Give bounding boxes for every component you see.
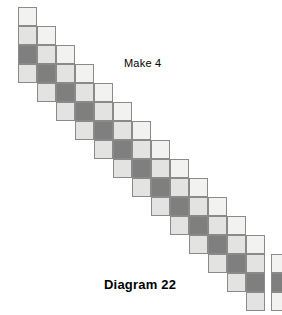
patch-square-dark [132,159,151,178]
patch-square-dark [113,140,132,159]
patch-square-light [246,292,265,311]
patch-square-dotted [132,121,151,140]
patch-square-light [94,140,113,159]
patch-square-dotted [227,216,246,235]
patch-square-dotted [56,45,75,64]
patch-square-dotted [113,102,132,121]
patch-square-dark [271,273,282,292]
patch-square-light [132,178,151,197]
patch-square-dark [75,102,94,121]
patch-square-dotted [208,197,227,216]
patch-square-dotted [170,159,189,178]
patch-square-light [246,254,265,273]
patch-square-light [18,26,37,45]
patch-square-dark [94,121,113,140]
patch-square-light [227,235,246,254]
patch-square-dotted [246,235,265,254]
patch-square-dark [208,235,227,254]
patch-square-dotted [18,7,37,26]
patch-square-dotted [271,254,282,273]
patch-square-light [56,102,75,121]
patch-square-light [18,64,37,83]
diagram-caption: Diagram 22 [104,277,176,292]
patch-square-light [227,273,246,292]
patch-square-light [208,254,227,273]
patch-square-dotted [189,178,208,197]
patch-square-light [151,197,170,216]
patch-square-light [189,197,208,216]
patch-square-dotted [37,26,56,45]
patch-square-light [170,216,189,235]
patch-square-light [113,121,132,140]
patch-square-dotted [151,140,170,159]
patch-square-light [132,140,151,159]
patch-square-dark [227,254,246,273]
diagram-canvas: Make 4 Diagram 22 [0,0,282,315]
patch-square-light [37,45,56,64]
patch-square-dark [189,216,208,235]
patch-square-light [208,216,227,235]
patch-square-dark [246,273,265,292]
patch-square-dotted [75,64,94,83]
patch-square-dark [18,45,37,64]
patch-square-dotted [94,83,113,102]
patch-square-light [37,83,56,102]
patch-square-dark [151,178,170,197]
patch-square-light [75,83,94,102]
patch-square-dark [37,64,56,83]
patch-square-light [170,178,189,197]
make-quantity-label: Make 4 [124,57,161,69]
patch-square-light [75,121,94,140]
patch-square-light [56,64,75,83]
patch-square-dark [170,197,189,216]
patch-square-dark [56,83,75,102]
patch-square-light [113,159,132,178]
patch-square-light [151,159,170,178]
patch-square-light [189,235,208,254]
patch-square-dotted [271,292,282,311]
patch-square-light [94,102,113,121]
